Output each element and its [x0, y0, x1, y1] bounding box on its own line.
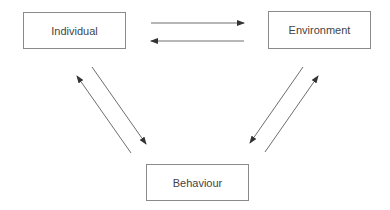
arrow-behaviour-to-environment	[265, 76, 318, 152]
environment-node: Environment	[268, 11, 371, 49]
environment-label: Environment	[289, 24, 351, 36]
arrow-behaviour-to-individual	[77, 76, 131, 153]
individual-label: Individual	[51, 25, 97, 37]
arrow-individual-to-behaviour	[92, 67, 146, 144]
behaviour-label: Behaviour	[173, 177, 223, 189]
individual-node: Individual	[23, 12, 126, 49]
arrow-environment-to-behaviour	[250, 67, 303, 143]
behaviour-node: Behaviour	[146, 164, 249, 201]
